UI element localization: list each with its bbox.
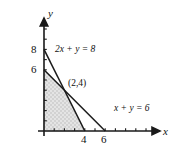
feasible-region-shading [44, 70, 85, 131]
arrow-right-icon [152, 127, 160, 135]
arrow-up-icon [40, 18, 48, 26]
graph-figure: y x 8 6 4 6 2x + y = 8 x + y = 6 (2,4) [0, 0, 174, 162]
coordinate-plane-svg [0, 0, 174, 162]
